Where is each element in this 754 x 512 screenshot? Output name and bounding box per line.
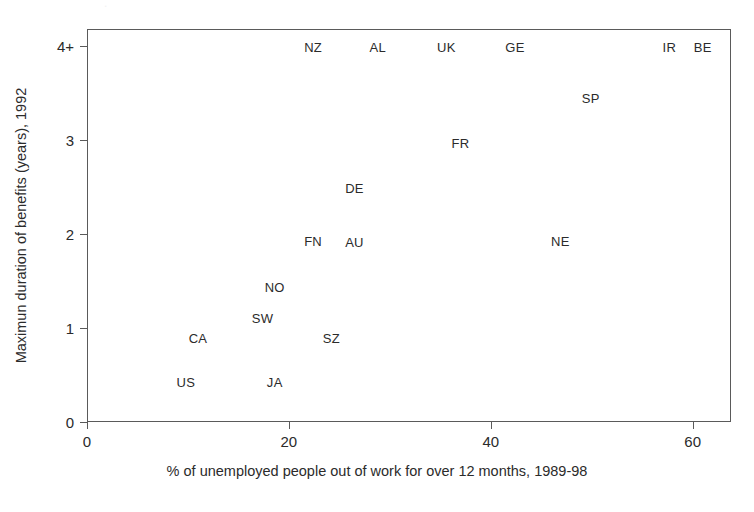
data-point-label-sw: SW (252, 310, 274, 325)
data-point-label-uk: UK (437, 39, 456, 54)
y-tick-label: 1 (32, 319, 74, 336)
x-tick-label: 0 (83, 433, 91, 450)
x-tick-mark (491, 422, 492, 429)
y-tick-label: 2 (32, 225, 74, 242)
y-tick-label: 0 (32, 414, 74, 431)
x-axis-label: % of unemployed people out of work for o… (0, 463, 754, 479)
y-tick-mark (80, 140, 87, 141)
y-tick-mark (80, 46, 87, 47)
y-tick-mark (80, 234, 87, 235)
plot-area: USCASWJANOFNSZAUDENZALUKGEFRNESPIRBE (87, 29, 731, 422)
data-point-label-no: NO (265, 279, 285, 294)
data-point-label-us: US (177, 374, 196, 389)
x-tick-label: 60 (684, 433, 701, 450)
data-point-label-ca: CA (189, 331, 208, 346)
x-tick-label: 40 (482, 433, 499, 450)
y-tick-label: 4+ (32, 37, 74, 54)
data-point-label-fn: FN (304, 233, 322, 248)
y-tick-label: 3 (32, 131, 74, 148)
y-tick-mark (80, 422, 87, 423)
data-point-label-sz: SZ (323, 331, 340, 346)
x-tick-mark (693, 422, 694, 429)
data-point-label-de: DE (345, 180, 364, 195)
data-point-label-ir: IR (663, 39, 677, 54)
data-point-label-al: AL (369, 39, 386, 54)
data-point-label-au: AU (345, 234, 364, 249)
y-tick-mark (80, 328, 87, 329)
data-point-label-nz: NZ (304, 39, 322, 54)
data-point-label-sp: SP (582, 90, 600, 105)
data-point-label-ne: NE (551, 233, 570, 248)
data-point-label-ja: JA (267, 374, 283, 389)
data-point-label-fr: FR (452, 135, 470, 150)
x-tick-mark (87, 422, 88, 429)
cropped-caption-artifact: . (104, 0, 404, 8)
x-tick-label: 20 (281, 433, 298, 450)
data-point-label-be: BE (694, 39, 712, 54)
scatter-plot-figure: . Maximun duration of benefits (years), … (0, 0, 754, 512)
x-tick-mark (289, 422, 290, 429)
data-point-label-ge: GE (505, 39, 524, 54)
